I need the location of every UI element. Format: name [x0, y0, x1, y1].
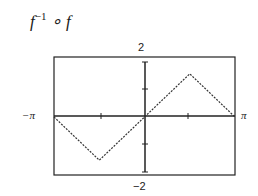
plot-area: [0, 0, 258, 196]
